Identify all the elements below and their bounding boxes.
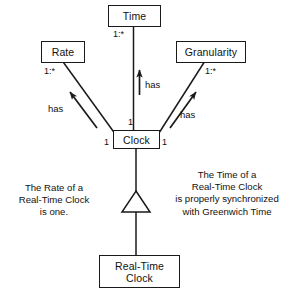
multiplicity-clock-left: 1 [104, 137, 109, 147]
class-name-rate: Rate [52, 46, 75, 58]
association-line-clock-granularity [159, 63, 204, 134]
class-box-clock[interactable]: Clock [113, 130, 160, 149]
constraint-note-rate: The Rate of a Real-Time Clock is one. [2, 182, 106, 219]
multiplicity-rate-end: 1:* [44, 66, 55, 76]
class-box-granularity[interactable]: Granularity [176, 41, 246, 63]
class-name-real-time-clock: Real-Time Clock [115, 260, 164, 284]
class-name-clock: Clock [123, 134, 150, 146]
class-name-time: Time [123, 10, 146, 22]
multiplicity-granularity-end: 1:* [205, 66, 216, 76]
multiplicity-time-end: 1:* [113, 29, 124, 39]
association-label-rate: has [48, 104, 63, 114]
association-label-time: has [145, 80, 160, 90]
diagram-canvas: Time Rate Granularity Clock Real-Time Cl… [0, 0, 291, 289]
multiplicity-clock-top: 1 [128, 117, 133, 127]
association-label-granularity: has [180, 110, 195, 120]
class-box-time[interactable]: Time [108, 5, 161, 27]
class-box-real-time-clock[interactable]: Real-Time Clock [99, 255, 180, 288]
class-box-rate[interactable]: Rate [41, 41, 85, 63]
generalization-triangle-icon [122, 191, 150, 212]
multiplicity-clock-right: 1 [162, 137, 167, 147]
class-name-granularity: Granularity [185, 46, 237, 58]
constraint-note-time: The Time of a Real-Time Clock is properl… [163, 169, 291, 218]
association-line-clock-rate [64, 63, 115, 134]
association-arrow-rate [70, 92, 97, 128]
